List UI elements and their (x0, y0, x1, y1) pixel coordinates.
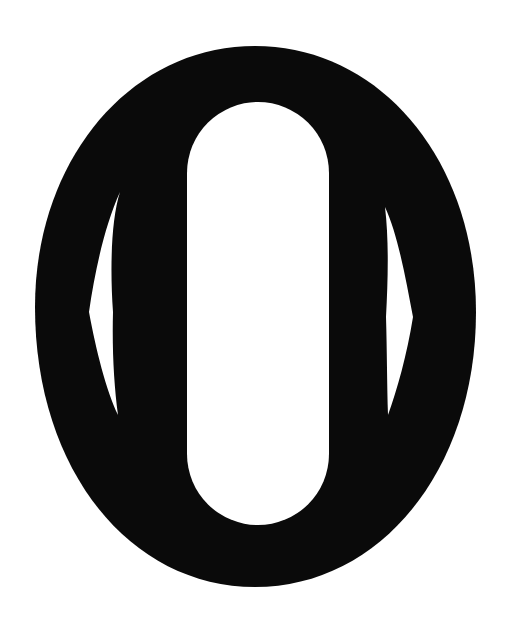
emblem-graphic (0, 0, 515, 632)
center-stadium-cutout (187, 102, 329, 525)
emblem-canvas (0, 0, 515, 632)
